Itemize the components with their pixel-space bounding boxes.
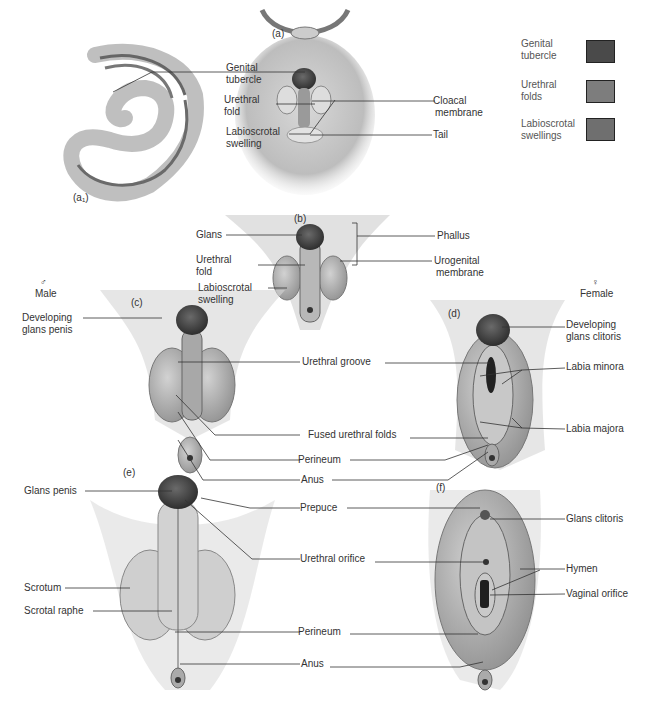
male-symbol-icon: ♂ — [40, 276, 47, 288]
female-symbol-icon: ♀ — [592, 276, 599, 288]
label-b-labioscrotal-swelling-2: swelling — [198, 294, 234, 306]
legend-swatch-genital-tubercle — [586, 40, 615, 63]
label-f-hymen: Hymen — [566, 563, 598, 575]
label-b-labioscrotal-swelling-1: Labioscrotal — [198, 282, 252, 294]
panel-tag-a: (a) — [272, 28, 284, 39]
legend-label-labioscrotal-swellings-1: Labioscrotal — [521, 118, 575, 130]
female-label: Female — [580, 288, 613, 300]
label-b-urethral-fold-1: Urethral — [196, 254, 232, 266]
label-a-labioscrotal-swelling-1: Labioscrotal — [226, 126, 280, 138]
label-a-urethral-fold-2: fold — [224, 106, 240, 118]
label-e-scrotum: Scrotum — [24, 582, 61, 594]
panel-tag-d: (d) — [448, 308, 460, 319]
label-b-urogenital-membrane-1: Urogenital — [434, 255, 480, 267]
illustration-artwork — [0, 0, 653, 702]
label-ef-urethral-orifice: Urethral orifice — [300, 553, 365, 565]
label-e-scrotal-raphe: Scrotal raphe — [24, 605, 83, 617]
label-c-developing-glans-penis-2: glans penis — [22, 324, 73, 336]
panel-tag-c: (c) — [131, 297, 143, 308]
label-cd-perineum: Perineum — [298, 454, 341, 466]
panel-c-art — [100, 290, 285, 473]
legend-label-genital-tubercle-2: tubercle — [521, 50, 557, 62]
male-label: Male — [35, 288, 57, 300]
label-a-genital-tubercle-1: Genital — [226, 62, 258, 74]
label-cd-fused-urethral-folds: Fused urethral folds — [308, 429, 396, 441]
label-b-urogenital-membrane-2: membrane — [436, 267, 484, 279]
label-ef-perineum: Perineum — [298, 626, 341, 638]
label-a-labioscrotal-swelling-2: swelling — [226, 138, 262, 150]
label-ef-prepuce: Prepuce — [300, 502, 337, 514]
panel-tag-b: (b) — [294, 213, 306, 224]
label-b-phallus: Phallus — [437, 230, 470, 242]
legend-label-genital-tubercle-1: Genital — [521, 38, 553, 50]
label-f-vaginal-orifice: Vaginal orifice — [566, 588, 628, 600]
label-ef-anus: Anus — [301, 658, 324, 670]
label-b-urethral-fold-2: fold — [196, 266, 212, 278]
label-a-genital-tubercle-2: tubercle — [226, 74, 262, 86]
panel-tag-e: (e) — [123, 467, 135, 478]
label-d-labia-majora: Labia majora — [566, 423, 624, 435]
label-cd-urethral-groove: Urethral groove — [302, 356, 371, 368]
label-b-glans: Glans — [196, 229, 222, 241]
panel-tag-a1: (a₁) — [73, 192, 89, 203]
label-a-cloacal-membrane-1: Cloacal — [433, 95, 466, 107]
panel-tag-f: (f) — [436, 482, 445, 493]
label-d-labia-minora: Labia minora — [566, 361, 624, 373]
label-cd-anus: Anus — [301, 474, 324, 486]
legend-swatch-labioscrotal-swellings — [586, 118, 615, 141]
label-d-developing-glans-clitoris-2: glans clitoris — [566, 331, 621, 343]
panel-d-art — [430, 300, 565, 470]
label-a-urethral-fold-1: Urethral — [224, 94, 260, 106]
label-e-glans-penis: Glans penis — [24, 485, 77, 497]
legend-label-urethral-folds-1: Urethral — [521, 79, 557, 91]
legend-label-labioscrotal-swellings-2: swellings — [521, 130, 562, 142]
legend-label-urethral-folds-2: folds — [521, 91, 542, 103]
label-c-developing-glans-penis-1: Developing — [22, 312, 72, 324]
panel-a1-art — [71, 52, 196, 193]
legend-swatch-urethral-folds — [586, 80, 615, 103]
label-a-cloacal-membrane-2: membrane — [435, 107, 483, 119]
panel-f-art — [428, 490, 541, 690]
label-a-tail: Tail — [433, 129, 448, 141]
label-d-developing-glans-clitoris-1: Developing — [566, 319, 616, 331]
label-f-glans-clitoris: Glans clitoris — [566, 513, 623, 525]
